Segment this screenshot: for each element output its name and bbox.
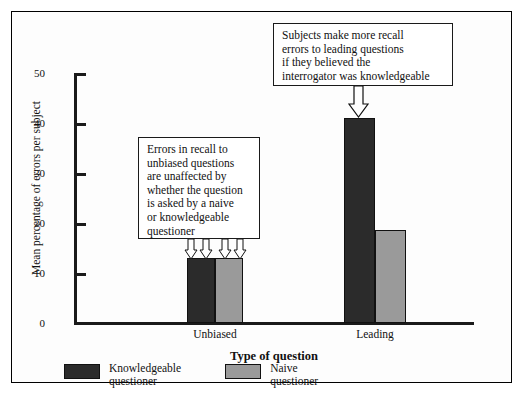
- annotation-box-unbiased: Errors in recall to unbiased questions a…: [138, 137, 260, 239]
- chart-frame: 50 40 30 20 10 0 Mean percentage of erro…: [11, 11, 512, 383]
- y-axis-title: Mean percentage of errors per subject: [30, 88, 42, 288]
- annotation-box-leading: Subjects make more recall errors to lead…: [273, 23, 453, 86]
- legend-label-naive: Naive questioner: [270, 362, 318, 388]
- y-axis-line: [74, 73, 77, 325]
- bar-leading-knowledgeable: [344, 118, 375, 323]
- down-arrow-icon-2: [199, 239, 213, 260]
- legend-label-knowledgeable-line1: Knowledgeable: [109, 362, 181, 375]
- legend-label-naive-line1: Naive: [270, 362, 318, 375]
- y-tick-10: [77, 273, 86, 276]
- legend-item-naive: Naive questioner: [225, 362, 318, 388]
- down-arrow-icon-4: [233, 239, 247, 260]
- y-tick-30: [77, 173, 86, 176]
- annotation-unbiased-line-1: Errors in recall to: [147, 143, 252, 157]
- down-arrow-icon-1: [184, 239, 198, 260]
- plot-area: 50 40 30 20 10 0 Mean percentage of erro…: [12, 12, 511, 382]
- legend-label-knowledgeable: Knowledgeable questioner: [109, 362, 181, 388]
- annotation-unbiased-line-2: unbiased questions: [147, 157, 252, 171]
- y-tick-50: [77, 73, 86, 76]
- category-label-unbiased: Unbiased: [155, 328, 275, 340]
- annotation-leading-line-2: errors to leading questions: [282, 43, 445, 57]
- category-label-leading: Leading: [315, 328, 435, 340]
- down-arrow-icon-3: [218, 239, 232, 260]
- annotation-unbiased-line-6: or knowledgeable: [147, 211, 252, 225]
- annotation-leading-line-3: if they believed the: [282, 56, 445, 70]
- y-tick-label-0: 0: [11, 318, 45, 329]
- annotation-leading-line-4: interrogator was knowledgeable: [282, 70, 445, 84]
- legend-label-knowledgeable-line2: questioner: [109, 375, 181, 388]
- x-axis-line: [74, 322, 474, 325]
- y-tick-40: [77, 123, 86, 126]
- annotation-unbiased-line-7: questioner: [147, 225, 252, 239]
- legend-swatch-naive: [225, 364, 261, 379]
- annotation-unbiased-line-4: whether the question: [147, 184, 252, 198]
- legend-item-knowledgeable: Knowledgeable questioner: [64, 362, 181, 388]
- legend-label-naive-line2: questioner: [270, 375, 318, 388]
- annotation-leading-line-1: Subjects make more recall: [282, 29, 445, 43]
- annotation-unbiased-line-3: are unaffected by: [147, 170, 252, 184]
- down-arrow-icon-5: [348, 86, 370, 118]
- y-tick-label-50: 50: [11, 68, 45, 79]
- bar-unbiased-naive: [215, 258, 243, 323]
- annotation-unbiased-line-5: is asked by a naive: [147, 197, 252, 211]
- legend: Knowledgeable questioner Naive questione…: [64, 362, 318, 388]
- bar-leading-naive: [375, 230, 406, 323]
- legend-swatch-knowledgeable: [64, 364, 100, 379]
- bar-unbiased-knowledgeable: [187, 258, 215, 323]
- y-tick-20: [77, 223, 86, 226]
